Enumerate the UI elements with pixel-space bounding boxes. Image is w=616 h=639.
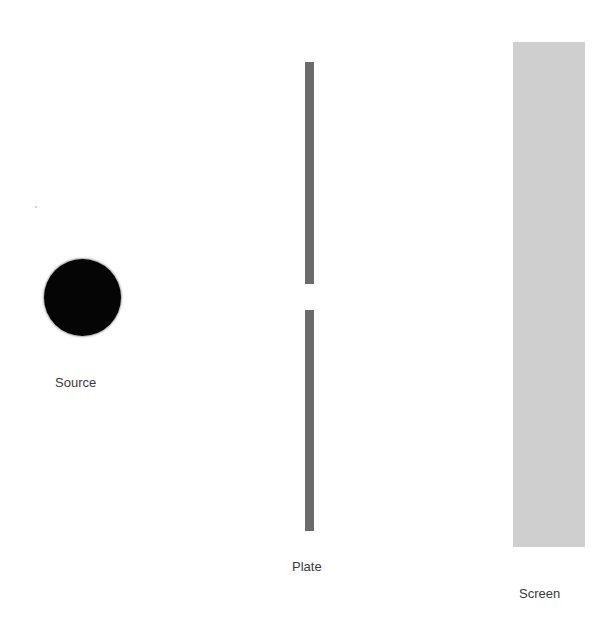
source-label: Source (55, 375, 96, 390)
screen-label: Screen (519, 586, 560, 601)
speck-artifact (35, 206, 37, 208)
plate-label: Plate (292, 559, 322, 574)
source-circle (44, 259, 121, 336)
plate-bottom-segment (305, 310, 314, 531)
screen-rect (513, 42, 585, 547)
plate-top-segment (305, 62, 314, 284)
